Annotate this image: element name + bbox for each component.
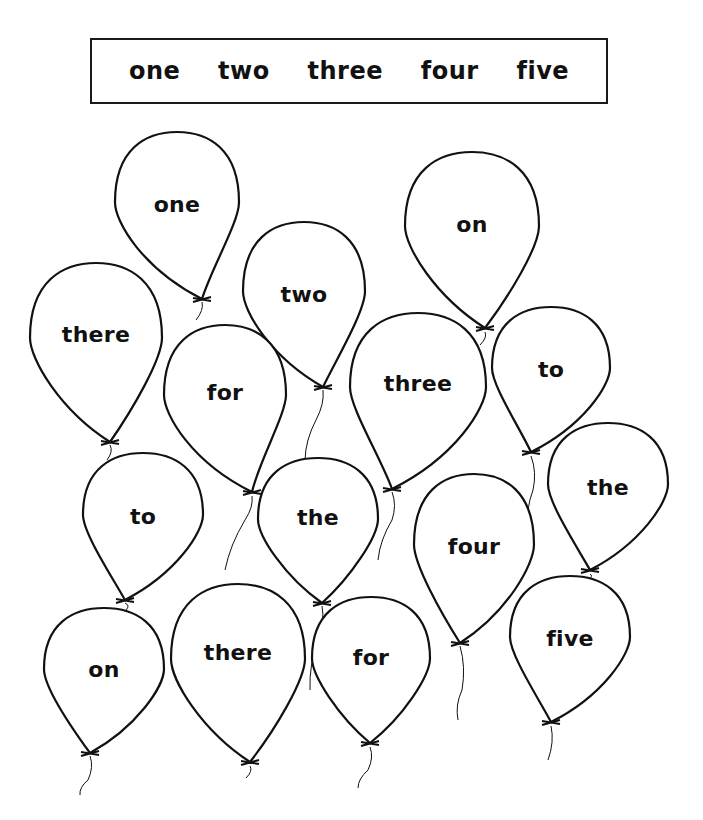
balloon-word-on[interactable]: on — [456, 212, 487, 237]
balloon-word-two[interactable]: two — [281, 282, 328, 307]
balloon-outline — [258, 458, 378, 603]
balloon-word-to[interactable]: to — [130, 504, 156, 529]
balloon-string — [107, 445, 111, 460]
balloon-word-one[interactable]: one — [154, 192, 201, 217]
balloon-outline — [350, 313, 486, 489]
balloon[interactable] — [548, 423, 668, 580]
balloon-word-four[interactable]: four — [448, 534, 500, 559]
balloon-word-on[interactable]: on — [88, 657, 119, 682]
balloon[interactable] — [44, 608, 164, 795]
balloon[interactable] — [510, 576, 630, 760]
balloon-string — [225, 496, 252, 570]
balloon[interactable] — [83, 453, 203, 610]
balloon[interactable] — [30, 263, 162, 460]
balloon-word-there[interactable]: there — [62, 322, 130, 347]
balloon-string — [80, 756, 92, 795]
balloon-outline — [30, 263, 162, 442]
balloon-string — [548, 726, 552, 760]
balloon-string — [358, 747, 372, 788]
balloon-string — [305, 390, 323, 460]
balloon-string — [246, 766, 251, 778]
balloon-word-there[interactable]: there — [204, 640, 272, 665]
balloon-outline — [405, 152, 539, 328]
balloon-string — [125, 603, 128, 610]
balloon-word-three[interactable]: three — [384, 371, 452, 396]
balloon-outline — [312, 597, 430, 743]
balloon-word-to[interactable]: to — [538, 357, 564, 382]
balloon-word-the[interactable]: the — [587, 475, 629, 500]
balloon-word-five[interactable]: five — [546, 626, 594, 651]
balloon-string — [378, 492, 395, 560]
balloon-word-for[interactable]: for — [353, 645, 389, 670]
balloon[interactable] — [312, 597, 430, 788]
balloon-word-for[interactable]: for — [207, 380, 243, 405]
balloon-outline — [171, 584, 305, 762]
balloon-string — [196, 302, 202, 320]
balloon-word-the[interactable]: the — [297, 505, 339, 530]
balloon-string — [457, 646, 464, 720]
balloon[interactable] — [414, 474, 534, 720]
balloon[interactable] — [171, 584, 305, 778]
balloon-illustrations — [0, 0, 703, 820]
balloon-string — [480, 332, 486, 345]
